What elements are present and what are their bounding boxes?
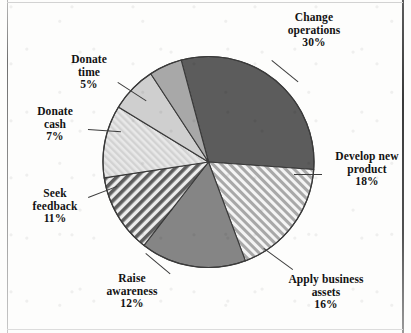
- slice-label-line1: Change: [295, 11, 333, 23]
- slice-label-line2: feedback: [33, 200, 78, 212]
- slice-label-line2: assets: [312, 286, 341, 298]
- pie-chart-graphic: [102, 49, 315, 275]
- slice-percent: 18%: [321, 175, 411, 188]
- slice-label-donate-time: Donate time 5%: [56, 53, 122, 91]
- slice-label-line1: Raise: [118, 272, 145, 284]
- slice-label-line1: Donate: [37, 105, 73, 117]
- slice-label-line2: operations: [288, 24, 341, 36]
- slice-percent: 11%: [20, 212, 90, 225]
- slice-label-seek-feedback: Seek feedback 11%: [20, 187, 90, 225]
- slice-percent: 30%: [266, 36, 362, 49]
- slice-label-line1: Develop new: [335, 150, 398, 162]
- slice-label-develop-new-product: Develop new product 18%: [321, 150, 411, 188]
- slice-label-line2: time: [78, 66, 100, 78]
- slice-label-line2: product: [347, 163, 386, 175]
- slice-label-raise-awareness: Raise awareness 12%: [90, 272, 174, 310]
- pie-svg: [102, 49, 315, 275]
- pie-slices: [103, 56, 314, 267]
- scanned-page: Change operations 30% Develop new produc…: [0, 0, 411, 333]
- slice-percent: 12%: [90, 297, 174, 310]
- slice-label-line1: Apply business: [288, 273, 363, 285]
- pie-chart-figure: Change operations 30% Develop new produc…: [8, 3, 402, 330]
- slice-label-apply-business-assets: Apply business assets 16%: [270, 273, 382, 311]
- slice-percent: 16%: [270, 298, 382, 311]
- slice-label-line2: cash: [44, 118, 66, 130]
- slice-label-change-operations: Change operations 30%: [266, 11, 362, 49]
- slice-percent: 7%: [20, 130, 90, 143]
- slice-label-line1: Seek: [43, 187, 66, 199]
- slice-percent: 5%: [56, 78, 122, 91]
- slice-label-line2: awareness: [106, 285, 157, 297]
- slice-label-line1: Donate: [71, 53, 107, 65]
- leader-line-develop-new-product: [294, 174, 322, 175]
- slice-label-donate-cash: Donate cash 7%: [20, 105, 90, 143]
